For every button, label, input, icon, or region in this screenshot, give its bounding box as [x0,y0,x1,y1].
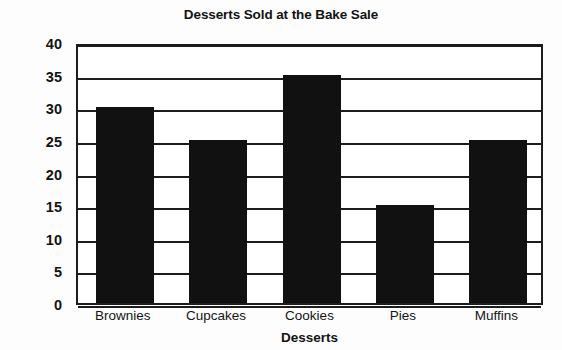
y-tick-label: 20 [46,167,62,182]
bar-muffins [469,140,527,303]
x-axis-tick-labels: BrowniesCupcakesCookiesPiesMuffins [76,308,543,328]
chart-title: Desserts Sold at the Bake Sale [0,7,562,22]
y-tick-label: 0 [54,298,62,313]
bars-layer [78,46,541,303]
y-tick-label: 35 [46,69,62,84]
y-axis-tick-labels: 4035302520151050 [0,44,70,305]
x-tick-label: Cupcakes [186,308,246,323]
bar-cookies [283,75,341,303]
x-tick-label: Muffins [475,308,518,323]
x-tick-label: Pies [390,308,416,323]
y-tick-label: 25 [46,135,62,150]
y-tick-label: 15 [46,200,62,215]
x-tick-label: Brownies [95,308,151,323]
y-tick-label: 40 [46,37,62,52]
bar-cupcakes [189,140,247,303]
x-axis-title: Desserts [76,330,543,345]
x-tick-label: Cookies [285,308,334,323]
y-tick-label: 10 [46,233,62,248]
y-tick-label: 30 [46,102,62,117]
y-tick-label: 5 [54,265,62,280]
bar-brownies [96,107,154,303]
bar-chart: Desserts Sold at the Bake Sale Number So… [0,0,562,350]
plot-area [76,44,543,305]
bar-pies [376,205,434,303]
